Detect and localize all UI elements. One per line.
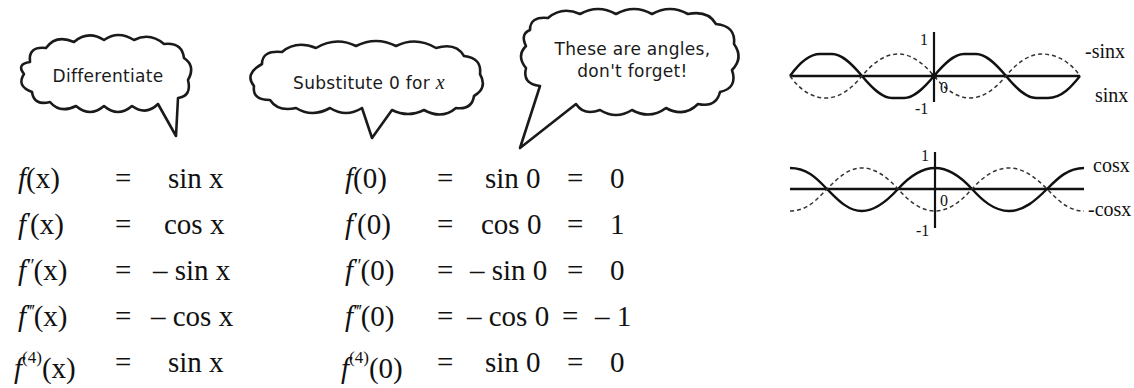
cos-label: cosx (1093, 154, 1130, 177)
top-tick-0: 0 (940, 79, 948, 97)
neg-sin-label: -sinx (1085, 40, 1125, 63)
top-tick-minus-1: -1 (915, 100, 928, 118)
cosine-graph (790, 152, 1084, 228)
bottom-tick-minus-1: -1 (916, 222, 929, 240)
sin-label: sinx (1095, 84, 1128, 107)
top-tick-1: 1 (920, 31, 928, 49)
sine-graph (790, 32, 1080, 102)
neg-cos-label: -cosx (1088, 198, 1131, 221)
bottom-tick-0: 0 (940, 192, 948, 210)
bottom-tick-1: 1 (921, 147, 929, 165)
